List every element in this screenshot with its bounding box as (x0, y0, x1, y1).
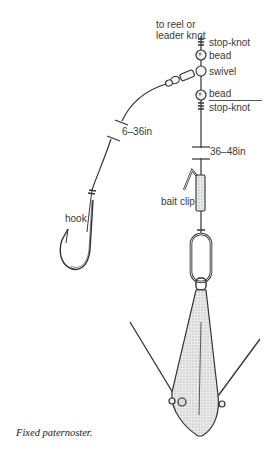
label-leader-knot: leader knot (156, 30, 205, 41)
label-bait-clip: bait clip (161, 196, 195, 207)
label-hook: hook (65, 213, 87, 224)
hook-icon (60, 200, 93, 269)
swivel-icon (165, 66, 206, 87)
label-stop-knot-bottom: stop-knot (209, 102, 250, 113)
figure-caption: Fixed paternoster. (16, 427, 92, 438)
link-icon (191, 230, 211, 290)
label-swivel: swivel (209, 66, 236, 77)
grip-lead-weight-icon (130, 290, 260, 436)
label-to-reel: to reel or (156, 19, 195, 30)
label-snood-length: 6–36in (122, 126, 152, 137)
label-bead-bottom: bead (209, 88, 262, 101)
label-bead-top: bead (209, 50, 231, 61)
label-trace-length: 36–48in (210, 146, 246, 157)
snood-line (87, 84, 166, 232)
label-stop-knot-top: stop-knot (209, 37, 250, 48)
